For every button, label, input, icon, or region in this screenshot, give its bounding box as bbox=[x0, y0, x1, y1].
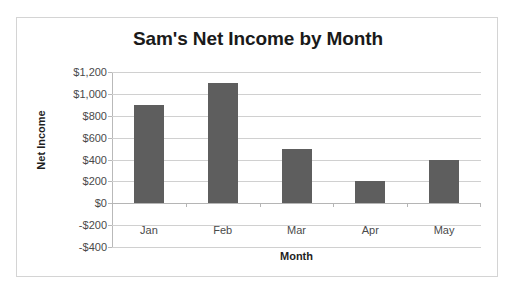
gridline bbox=[112, 247, 481, 248]
y-axis-tick-label: $200 bbox=[47, 176, 107, 187]
value-axis-tick bbox=[108, 72, 112, 73]
gridline bbox=[112, 72, 481, 73]
chart-title: Sam's Net Income by Month bbox=[17, 28, 499, 50]
y-axis-tick-label: $400 bbox=[47, 155, 107, 166]
x-axis-tick-label-may: May bbox=[407, 224, 481, 236]
y-axis-tick-label: -$400 bbox=[47, 242, 107, 253]
x-axis-title: Month bbox=[112, 250, 481, 262]
gridline bbox=[112, 203, 481, 204]
gridline bbox=[112, 94, 481, 95]
x-axis-tick-label-feb: Feb bbox=[186, 224, 260, 236]
plot-area bbox=[112, 72, 481, 247]
bar-jan[interactable] bbox=[134, 105, 164, 203]
gridline bbox=[112, 116, 481, 117]
y-axis-tick-labels: $1,200$1,000$800$600$400$200$0-$200-$400 bbox=[44, 72, 107, 247]
value-axis-tick bbox=[108, 225, 112, 226]
bar-apr[interactable] bbox=[355, 181, 385, 203]
category-tick bbox=[186, 203, 187, 207]
category-tick bbox=[407, 203, 408, 207]
y-axis-tick-label: -$200 bbox=[47, 220, 107, 231]
x-axis-tick-label-apr: Apr bbox=[333, 224, 407, 236]
y-axis-tick-label: $0 bbox=[47, 198, 107, 209]
y-axis-tick-label: $800 bbox=[47, 111, 107, 122]
value-axis-tick bbox=[108, 138, 112, 139]
y-axis-tick-label: $1,000 bbox=[47, 89, 107, 100]
value-axis-tick bbox=[108, 160, 112, 161]
value-axis-tick bbox=[108, 247, 112, 248]
gridline bbox=[112, 138, 481, 139]
category-tick bbox=[333, 203, 334, 207]
value-axis-tick bbox=[108, 116, 112, 117]
category-tick bbox=[480, 203, 481, 207]
bar-may[interactable] bbox=[429, 160, 459, 204]
y-axis-tick-label: $1,200 bbox=[47, 67, 107, 78]
x-axis-tick-labels: JanFebMarAprMay bbox=[112, 224, 481, 240]
bar-mar[interactable] bbox=[282, 149, 312, 204]
value-axis-tick bbox=[108, 181, 112, 182]
value-axis-tick bbox=[108, 203, 112, 204]
y-axis-tick-label: $600 bbox=[47, 133, 107, 144]
value-axis-tick bbox=[108, 94, 112, 95]
chart-container: Sam's Net Income by Month Net Income $1,… bbox=[16, 17, 498, 277]
category-tick bbox=[112, 203, 113, 207]
category-tick bbox=[260, 203, 261, 207]
x-axis-tick-label-mar: Mar bbox=[260, 224, 334, 236]
x-axis-tick-label-jan: Jan bbox=[112, 224, 186, 236]
bar-feb[interactable] bbox=[208, 83, 238, 203]
